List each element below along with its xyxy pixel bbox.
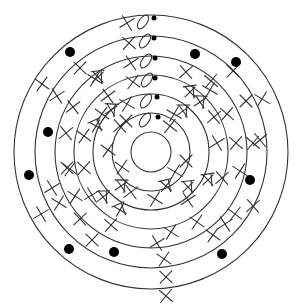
x-mark-icon <box>159 289 172 302</box>
x-mark-icon <box>180 66 193 79</box>
x-mark-icon <box>157 252 171 266</box>
x-mark-icon <box>77 129 91 143</box>
dot-icon <box>217 249 227 259</box>
small-dot-icon <box>156 115 161 120</box>
oval-icon <box>137 111 153 129</box>
x-mark-icon <box>86 234 98 246</box>
x-mark-icon <box>74 213 86 225</box>
x-mark-icon <box>52 196 66 210</box>
x-mark-icon <box>35 77 49 91</box>
rings-group <box>14 15 288 289</box>
x-mark-icon <box>247 200 260 213</box>
x-mark-icon <box>120 115 132 127</box>
dot-icon <box>65 47 75 57</box>
x-mark-icon <box>124 185 138 199</box>
x-mark-icon <box>246 136 259 149</box>
oval-icon <box>138 52 154 70</box>
small-dot-icon <box>153 76 158 81</box>
ring-5 <box>55 56 247 248</box>
x-mark-icon <box>240 95 252 107</box>
crossed-mark-icon <box>87 118 103 134</box>
x-mark-icon <box>210 136 224 150</box>
x-mark-icon <box>59 126 72 139</box>
dot-icon <box>64 244 74 254</box>
crossed-mark-icon <box>201 173 214 186</box>
crossed-mark-icon <box>95 189 109 203</box>
x-mark-icon <box>78 162 91 175</box>
top-column-group <box>120 13 161 129</box>
diagram-canvas <box>0 0 301 308</box>
x-mark-icon <box>105 219 118 232</box>
ring-1 <box>131 132 171 172</box>
ring-2 <box>112 113 190 191</box>
dot-icon <box>245 175 255 185</box>
small-dot-icon <box>155 95 160 100</box>
x-mark-icon <box>228 207 242 221</box>
concentric-ring-diagram <box>0 0 301 308</box>
oval-icon <box>137 32 153 50</box>
x-mark-icon <box>221 108 234 121</box>
x-mark-icon <box>148 192 162 206</box>
x-mark-icon <box>180 155 192 167</box>
crossed-mark-icon <box>175 103 190 118</box>
x-mark-icon <box>45 181 59 195</box>
small-dot-icon <box>153 56 158 61</box>
x-mark-icon <box>230 137 243 150</box>
x-mark-icon <box>74 62 86 74</box>
x-mark-icon <box>34 207 49 222</box>
small-dot-icon <box>152 36 157 41</box>
dot-icon <box>43 127 53 137</box>
x-mark-icon <box>206 228 220 242</box>
crossed-mark-icon <box>192 94 207 109</box>
x-mark-icon <box>160 271 172 283</box>
dot-icon <box>109 247 119 257</box>
x-mark-icon <box>114 120 127 133</box>
dot-icon <box>24 170 34 180</box>
x-mark-icon <box>208 111 221 124</box>
crossed-mark-icon <box>181 180 194 193</box>
small-dot-icon <box>152 16 157 21</box>
oval-icon <box>139 71 155 89</box>
dot-icon <box>190 49 200 59</box>
dot-icon <box>231 57 241 67</box>
x-mark-icon <box>68 189 82 203</box>
